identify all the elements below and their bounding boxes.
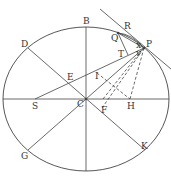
- label-S: S: [32, 101, 38, 111]
- label-Q: Q: [111, 33, 118, 43]
- label-I: I: [95, 71, 99, 81]
- label-v: v: [135, 48, 142, 58]
- ellipse-diagram: BRQPDTxvEISCFHKG: [0, 0, 171, 176]
- label-H: H: [127, 101, 135, 111]
- label-E: E: [67, 72, 74, 82]
- point-C: [85, 98, 88, 101]
- line-SP: [35, 48, 144, 99]
- label-K: K: [141, 141, 148, 151]
- label-B: B: [83, 16, 90, 26]
- point-P: [143, 47, 146, 50]
- label-F: F: [101, 105, 107, 115]
- label-D: D: [21, 39, 28, 49]
- label-C: C: [77, 99, 84, 109]
- label-T: T: [118, 49, 124, 59]
- label-R: R: [124, 21, 131, 31]
- diagram-canvas: BRQPDTxvEISCFHKG: [0, 0, 171, 176]
- label-P: P: [146, 39, 152, 49]
- label-G: G: [21, 151, 28, 161]
